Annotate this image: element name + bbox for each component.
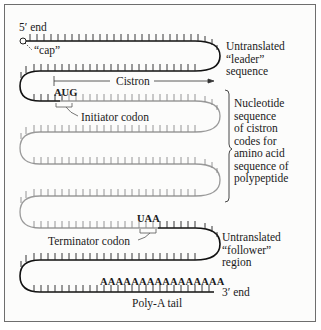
poly-a-tail-label: Poly-A tail — [132, 297, 182, 310]
leader-sequence-label: Untranslated “leader” sequence — [226, 40, 285, 78]
five-prime-end-label: 5′ end — [19, 21, 47, 34]
uaa-codon-label: UAA — [137, 213, 160, 226]
initiator-codon-bracket — [56, 103, 78, 116]
coding-region-brace — [225, 90, 232, 202]
poly-a-sequence: AAAAAAAAAAAAAAAA — [100, 276, 225, 289]
aug-codon-label: AUG — [54, 87, 77, 100]
initiator-codon-label: Initiator codon — [81, 111, 149, 124]
terminator-codon-label: Terminator codon — [48, 235, 130, 248]
terminator-codon-bracket — [138, 229, 156, 240]
cistron-label: Cistron — [116, 75, 150, 88]
three-prime-end-label: 3′ end — [222, 286, 250, 299]
follower-region-label: Untranslated “follower” region — [222, 231, 281, 269]
coding-description-label: Nucleotide sequence of cistron codes for… — [234, 97, 289, 185]
cap-label: “cap” — [34, 44, 60, 57]
